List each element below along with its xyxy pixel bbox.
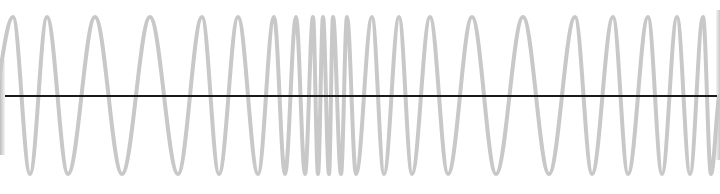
wave-diagram [0, 0, 720, 194]
